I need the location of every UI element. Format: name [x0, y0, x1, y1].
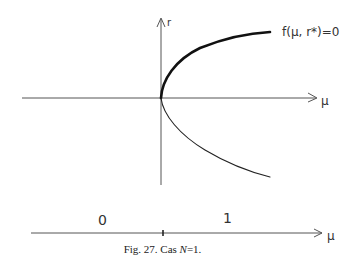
- curve-upper-branch: [161, 32, 270, 98]
- caption-variable: N: [180, 243, 187, 255]
- bottom-axis-label: μ: [327, 229, 335, 243]
- curve-lower-branch: [161, 98, 270, 177]
- figure-caption: Fig. 27. Cas N=1.: [0, 243, 325, 255]
- caption-prefix: Fig. 27. Cas: [124, 243, 180, 255]
- vertical-axis: [157, 18, 165, 185]
- region-left-label: 0: [98, 212, 107, 228]
- curve-label: f(μ, r*)=0: [282, 25, 339, 39]
- bottom-axis: [31, 229, 322, 237]
- vertical-axis-label: r: [167, 17, 172, 28]
- horizontal-axis: [22, 93, 317, 102]
- region-right-label: 1: [223, 210, 232, 226]
- caption-suffix: =1.: [187, 243, 201, 255]
- horizontal-axis-label: μ: [321, 94, 329, 108]
- bifurcation-diagram: r μ f(μ, r*)=0 μ 0 1: [0, 0, 350, 270]
